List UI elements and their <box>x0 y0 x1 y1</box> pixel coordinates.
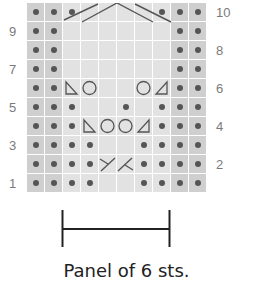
chart-cell-r9-c6 <box>117 22 134 40</box>
chart-cell-r2-c4 <box>81 155 98 173</box>
chart-cell-r1-c4 <box>81 174 98 192</box>
chart-cell-r3-c6 <box>117 136 134 154</box>
purl-dot-icon <box>51 85 57 91</box>
chart-cell-r6-c1 <box>27 79 44 97</box>
purl-dot-icon <box>195 104 201 110</box>
chart-cell-r1-c3 <box>63 174 80 192</box>
purl-dot-icon <box>159 104 165 110</box>
circle-icon <box>99 117 116 135</box>
chart-cell-r1-c1 <box>27 174 44 192</box>
purl-dot-icon <box>33 104 39 110</box>
chart-cell-r2-c1 <box>27 155 44 173</box>
chart-cell-r7-c2 <box>45 60 62 78</box>
purl-dot-icon <box>69 9 75 15</box>
purl-dot-icon <box>51 66 57 72</box>
row-number-10: 10 <box>216 6 230 19</box>
purl-dot-icon <box>33 47 39 53</box>
chart-cell-r5-c1 <box>27 98 44 116</box>
chart-cell-r7-c4 <box>81 60 98 78</box>
purl-dot-icon <box>177 66 183 72</box>
purl-dot-icon <box>51 9 57 15</box>
purl-dot-icon <box>177 85 183 91</box>
row-number-1: 1 <box>9 177 16 190</box>
chart-cell-r10-c10 <box>189 3 206 21</box>
purl-dot-icon <box>69 104 75 110</box>
purl-dot-icon <box>159 180 165 186</box>
purl-dot-icon <box>87 161 93 167</box>
chart-cell-r2-c5 <box>99 155 116 173</box>
chart-cell-r4-c2 <box>45 117 62 135</box>
row-number-4: 4 <box>216 120 223 133</box>
chart-cell-r8-c10 <box>189 41 206 59</box>
chart-cell-r5-c4 <box>81 98 98 116</box>
chart-cell-r10-c2 <box>45 3 62 21</box>
tri-right-icon <box>135 117 152 135</box>
purl-dot-icon <box>51 28 57 34</box>
chart-cell-r6-c5 <box>99 79 116 97</box>
purl-dot-icon <box>177 123 183 129</box>
purl-dot-icon <box>141 142 147 148</box>
chart-cell-r8-c6 <box>117 41 134 59</box>
purl-dot-icon <box>159 142 165 148</box>
purl-dot-icon <box>69 123 75 129</box>
chart-cell-r10-c3 <box>63 3 80 21</box>
circle-icon <box>81 79 98 97</box>
cross-right-icon <box>117 155 134 173</box>
chart-cell-r8-c4 <box>81 41 98 59</box>
chart-cell-r4-c10 <box>189 117 206 135</box>
chart-cell-r2-c6 <box>117 155 134 173</box>
purl-dot-icon <box>195 123 201 129</box>
chart-cell-r4-c4 <box>81 117 98 135</box>
chart-cell-r2-c9 <box>171 155 188 173</box>
purl-dot-icon <box>159 161 165 167</box>
chart-cell-r5-c2 <box>45 98 62 116</box>
purl-dot-icon <box>69 142 75 148</box>
chart-cell-r10-c4 <box>81 3 98 21</box>
chart-cell-r8-c9 <box>171 41 188 59</box>
chart-cell-r10-c7 <box>135 3 152 21</box>
purl-dot-icon <box>177 180 183 186</box>
purl-dot-icon <box>33 123 39 129</box>
chart-cell-r1-c7 <box>135 174 152 192</box>
purl-dot-icon <box>87 142 93 148</box>
purl-dot-icon <box>123 104 129 110</box>
chart-cell-r3-c3 <box>63 136 80 154</box>
purl-dot-icon <box>51 104 57 110</box>
circle-icon <box>117 117 134 135</box>
chart-cell-r5-c3 <box>63 98 80 116</box>
chart-cell-r8-c1 <box>27 41 44 59</box>
tri-left-icon <box>63 79 80 97</box>
chart-cell-r3-c4 <box>81 136 98 154</box>
chart-cell-r6-c2 <box>45 79 62 97</box>
chart-cell-r3-c2 <box>45 136 62 154</box>
chart-cell-r2-c10 <box>189 155 206 173</box>
chart-cell-r6-c9 <box>171 79 188 97</box>
chart-cell-r4-c3 <box>63 117 80 135</box>
purl-dot-icon <box>33 180 39 186</box>
chart-cell-r9-c10 <box>189 22 206 40</box>
purl-dot-icon <box>177 142 183 148</box>
chart-cell-r5-c10 <box>189 98 206 116</box>
purl-dot-icon <box>195 85 201 91</box>
purl-dot-icon <box>33 161 39 167</box>
chart-cell-r6-c10 <box>189 79 206 97</box>
knitting-chart <box>27 3 207 193</box>
chart-cell-r4-c5 <box>99 117 116 135</box>
chart-cell-r9-c1 <box>27 22 44 40</box>
chart-cell-r5-c9 <box>171 98 188 116</box>
chart-cell-r9-c4 <box>81 22 98 40</box>
panel-caption: Panel of 6 sts. <box>0 260 253 281</box>
chart-cell-r10-c9 <box>171 3 188 21</box>
purl-dot-icon <box>33 66 39 72</box>
chart-cell-r5-c6 <box>117 98 134 116</box>
chart-cell-r2-c2 <box>45 155 62 173</box>
chart-cell-r2-c3 <box>63 155 80 173</box>
purl-dot-icon <box>51 142 57 148</box>
chart-cell-r1-c5 <box>99 174 116 192</box>
chart-cell-r4-c6 <box>117 117 134 135</box>
chart-cell-r7-c3 <box>63 60 80 78</box>
chart-cell-r6-c8 <box>153 79 170 97</box>
circle-icon <box>135 79 152 97</box>
purl-dot-icon <box>195 47 201 53</box>
row-number-7: 7 <box>9 63 16 76</box>
